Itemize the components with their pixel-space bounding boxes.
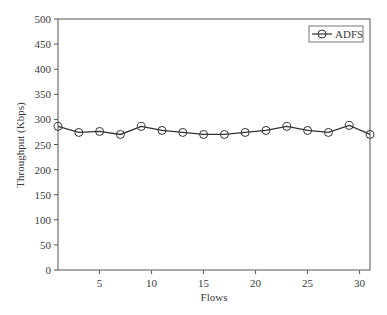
legend-label: ADFS bbox=[335, 28, 363, 40]
y-axis-ticks: 050100150200250300350400450500 bbox=[35, 13, 59, 276]
y-tick-label: 400 bbox=[35, 63, 52, 75]
x-tick-label: 5 bbox=[97, 277, 103, 289]
legend: ADFS bbox=[309, 26, 363, 42]
x-axis-ticks: 51015202530 bbox=[97, 270, 366, 289]
series-adfs bbox=[54, 121, 374, 138]
y-tick-label: 500 bbox=[35, 13, 52, 25]
x-tick-label: 25 bbox=[302, 277, 314, 289]
y-axis-title: Throughput (Kbps) bbox=[14, 102, 27, 188]
y-tick-label: 450 bbox=[35, 38, 52, 50]
y-tick-label: 50 bbox=[40, 239, 52, 251]
y-tick-label: 0 bbox=[46, 264, 52, 276]
y-tick-label: 250 bbox=[35, 139, 52, 151]
throughput-chart: 050100150200250300350400450500 510152025… bbox=[0, 0, 387, 315]
y-tick-label: 300 bbox=[35, 113, 52, 125]
plot-area-frame bbox=[58, 19, 370, 270]
x-axis-title: Flows bbox=[201, 291, 228, 303]
y-tick-label: 200 bbox=[35, 164, 52, 176]
x-tick-label: 30 bbox=[354, 277, 366, 289]
y-tick-label: 350 bbox=[35, 88, 52, 100]
y-tick-label: 100 bbox=[35, 214, 52, 226]
x-tick-label: 10 bbox=[146, 277, 158, 289]
x-tick-label: 20 bbox=[250, 277, 262, 289]
y-tick-label: 150 bbox=[35, 189, 52, 201]
x-tick-label: 15 bbox=[198, 277, 210, 289]
